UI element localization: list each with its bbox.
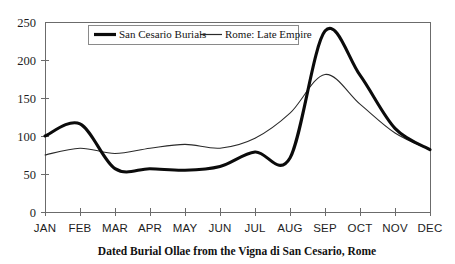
x-tick-label: JAN [34, 222, 56, 234]
x-axis-title: Dated Burial Ollae from the Vigna di San… [98, 245, 376, 258]
y-tick-label: 0 [30, 206, 36, 220]
legend-label-1: San Cesario Burials [119, 28, 206, 40]
y-tick-label: 250 [17, 16, 36, 30]
series-line-san-cesario-burials [45, 28, 430, 172]
x-tick-label: OCT [348, 222, 373, 234]
x-tick-label: JUL [244, 222, 265, 234]
legend-label-2: Rome: Late Empire [225, 28, 312, 40]
chart-legend: San Cesario BurialsRome: Late Empire [88, 25, 312, 44]
x-tick-label: MAY [173, 222, 198, 234]
y-tick-label: 200 [17, 54, 36, 68]
y-axis: 050100150200250 [17, 16, 430, 220]
series-lines [45, 28, 430, 172]
x-axis: JANFEBMARAPRMAYJUNJULAUGSEPOCTNOVDEC [34, 208, 443, 234]
x-tick-label: JUN [209, 222, 232, 234]
y-tick-label: 150 [17, 92, 36, 106]
y-tick-label: 50 [24, 168, 37, 182]
x-tick-label: DEC [418, 222, 443, 234]
y-tick-label: 100 [17, 130, 36, 144]
x-tick-label: APR [138, 222, 162, 234]
x-tick-label: NOV [382, 222, 408, 234]
x-tick-label: MAR [102, 222, 128, 234]
series-line-rome-late-empire [45, 74, 430, 155]
x-tick-label: SEP [313, 222, 337, 234]
x-tick-label: FEB [69, 222, 92, 234]
x-tick-label: AUG [277, 222, 303, 234]
chart-container: 050100150200250 JANFEBMARAPRMAYJUNJULAUG… [0, 0, 455, 264]
line-chart: 050100150200250 JANFEBMARAPRMAYJUNJULAUG… [0, 0, 455, 264]
